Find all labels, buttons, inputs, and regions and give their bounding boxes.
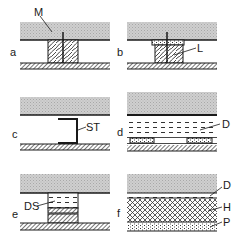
concrete-slab — [20, 97, 110, 115]
annotation-D: D — [223, 179, 231, 191]
leader-line — [78, 127, 86, 130]
annotation-DS: DS — [24, 200, 39, 212]
panel-label-a: a — [10, 46, 17, 58]
panel-label-e: e — [12, 208, 18, 220]
floor-board — [20, 223, 110, 230]
concrete-slab — [127, 92, 217, 114]
concrete-slab — [20, 174, 110, 193]
annotation-H: H — [223, 201, 231, 213]
floor-construction-diagram: M a L b ST c D — [0, 0, 245, 247]
layer-strip — [48, 214, 78, 223]
panel-label-d: d — [117, 126, 123, 138]
annotation-P: P — [223, 216, 230, 228]
panel-c: ST c — [12, 97, 110, 150]
floor-board — [20, 63, 110, 69]
support-strip-right — [187, 138, 212, 143]
support-strip-left — [130, 138, 154, 143]
concrete-slab — [127, 22, 217, 40]
panel-label-f: f — [117, 207, 121, 219]
damping-block — [48, 193, 78, 208]
floor-board — [20, 144, 110, 150]
annotation-L: L — [197, 42, 203, 54]
panel-f: D H P f — [117, 174, 231, 231]
floor-board — [127, 63, 217, 69]
cap-layer — [152, 40, 184, 45]
annotation-M: M — [34, 6, 43, 18]
panel-label-b: b — [117, 46, 123, 58]
panel-a: M a — [10, 6, 110, 69]
annotation-ST: ST — [86, 121, 100, 133]
timber-block — [155, 45, 183, 63]
concrete-slab — [127, 174, 217, 193]
annotation-D: D — [222, 118, 230, 130]
panel-e: DS e — [12, 174, 110, 230]
floor-board — [127, 145, 217, 151]
panel-label-c: c — [12, 128, 18, 140]
middle-layer — [127, 199, 217, 222]
concrete-slab — [20, 22, 110, 40]
panel-b: L b — [117, 22, 217, 69]
bottom-layer — [127, 223, 217, 231]
layer-strip — [48, 208, 78, 213]
panel-d: D d — [117, 92, 230, 151]
insulation-layer — [127, 118, 217, 137]
steel-bracket — [58, 119, 77, 143]
